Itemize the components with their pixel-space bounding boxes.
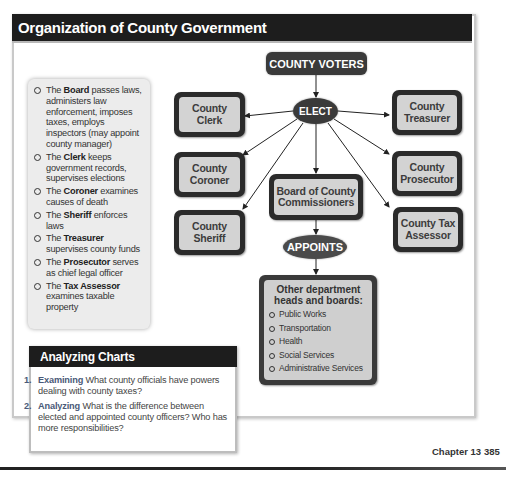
title-bar: Organization of County Government (12, 14, 472, 43)
page-number: 385 (484, 446, 500, 457)
bullet-icon (34, 154, 41, 161)
department-item: Transportation (269, 322, 368, 336)
bullet-icon (269, 326, 275, 332)
department-item: Health (269, 335, 368, 349)
info-item-board: The Board passes laws, administers law e… (34, 85, 144, 150)
county-voters-node: COUNTY VOTERS (266, 52, 367, 75)
bullet-icon (269, 312, 275, 318)
page-title: Organization of County Government (18, 19, 266, 36)
bullet-icon (34, 212, 41, 219)
info-item-sheriff: The Sheriff enforces laws (34, 210, 144, 232)
info-panel: The Board passes laws, administers law e… (28, 79, 150, 329)
county-coroner-node: County Coroner (174, 152, 245, 197)
county-prosecutor-node: County Prosecutor (392, 151, 462, 196)
chapter-label: Chapter 13 (432, 446, 481, 457)
bullet-icon (34, 259, 41, 266)
appointed-departments-node: Other department heads and boards: Publi… (259, 275, 377, 385)
question-2: 2. Analyzing What is the difference betw… (38, 401, 233, 434)
bullet-icon (269, 353, 275, 359)
info-item-prosecutor: The Prosecutor serves as chief legal off… (34, 257, 144, 279)
question-1: 1. Examining What county officials have … (38, 375, 233, 397)
county-clerk-node: County Clerk (174, 92, 245, 137)
bullet-icon (34, 283, 41, 290)
appoints-node: APPOINTS (283, 235, 347, 259)
county-tax-assessor-node: County Tax Assessor (393, 207, 463, 252)
footer-rule (0, 467, 506, 470)
bullet-icon (34, 87, 41, 94)
department-item: Social Services (269, 349, 368, 363)
info-item-tax-assessor: The Tax Assessor examines taxable proper… (34, 281, 144, 313)
county-treasurer-node: County Treasurer (392, 90, 462, 135)
appointed-title: Other department heads and boards: (269, 284, 368, 306)
info-item-coroner: The Coroner examines causes of death (34, 186, 144, 208)
analyzing-charts-header: Analyzing Charts (29, 346, 237, 367)
department-item: Public Works (269, 308, 368, 322)
county-sheriff-node: County Sheriff (174, 210, 245, 255)
bullet-icon (269, 339, 275, 345)
department-item: Administrative Services (269, 362, 368, 376)
info-item-clerk: The Clerk keeps government records, supe… (34, 152, 144, 184)
analyzing-charts-heading: Analyzing Charts (40, 350, 135, 364)
elect-node: ELECT (293, 98, 338, 124)
bullet-icon (269, 366, 275, 372)
bullet-icon (34, 188, 41, 195)
bullet-icon (34, 235, 41, 242)
info-item-treasurer: The Treasurer supervises county funds (34, 233, 144, 255)
board-of-commissioners-node: Board of County Commissioners (269, 174, 363, 220)
